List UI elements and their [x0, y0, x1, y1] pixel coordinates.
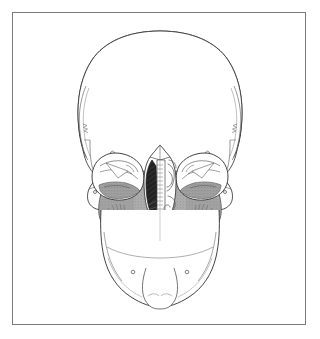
zygomaticofacial-foramen-left-icon	[94, 191, 97, 194]
zygomaticofacial-foramen-right-icon	[224, 191, 227, 194]
calvaria	[78, 31, 242, 160]
skull-illustration	[0, 0, 320, 339]
mental-foramen-left-icon	[131, 270, 135, 274]
mental-protuberance	[142, 268, 177, 309]
mental-foramen-right-icon	[185, 270, 189, 274]
figure-page: Human skull, anterior (frontal) view ant…	[0, 0, 320, 339]
